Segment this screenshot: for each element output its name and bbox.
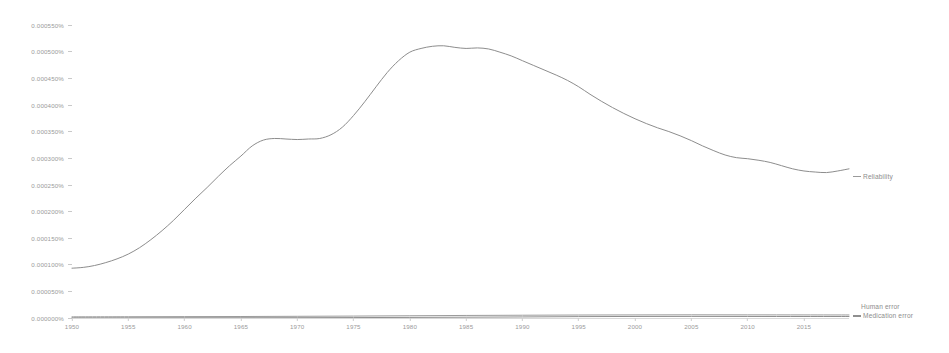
- x-axis-tick: 2015: [797, 318, 811, 330]
- series-label-medication-error[interactable]: Medication error: [853, 312, 913, 319]
- x-axis-tick-label: 1960: [177, 323, 191, 330]
- x-axis-tick: 1990: [515, 318, 529, 330]
- x-axis-tick-label: 2010: [740, 323, 754, 330]
- x-axis-tick-label: 1985: [459, 323, 473, 330]
- x-axis-tick: 1995: [572, 318, 586, 330]
- x-axis-tick: 1955: [121, 318, 135, 330]
- x-axis-tick: 1980: [403, 318, 417, 330]
- x-axis-tick-mark: [72, 318, 73, 321]
- x-axis-tick: 1975: [346, 318, 360, 330]
- x-axis-tick-label: 1950: [65, 323, 79, 330]
- series-label-text-reliability: Reliability: [863, 173, 893, 180]
- x-axis-tick-mark: [635, 318, 636, 321]
- series-label-reliability[interactable]: Reliability: [853, 173, 893, 180]
- x-axis-tick: 1965: [234, 318, 248, 330]
- x-axis-tick-mark: [747, 318, 748, 321]
- ngram-line-chart: 0.000000%0.000050%0.000100%0.000150%0.00…: [0, 0, 949, 353]
- x-axis-tick-mark: [409, 318, 410, 321]
- x-axis-tick: 1950: [65, 318, 79, 330]
- x-axis-tick-mark: [803, 318, 804, 321]
- series-line-reliability[interactable]: [72, 46, 849, 268]
- x-axis-tick-label: 2000: [628, 323, 642, 330]
- x-axis-tick: 1985: [459, 318, 473, 330]
- series-lead-line-medication-error: [853, 315, 861, 317]
- x-axis-tick-mark: [578, 318, 579, 321]
- x-axis-tick-mark: [184, 318, 185, 321]
- x-axis-tick-label: 1955: [121, 323, 135, 330]
- series-label-text-medication-error: Medication error: [863, 312, 913, 319]
- x-axis-tick-mark: [353, 318, 354, 321]
- x-axis-tick-mark: [466, 318, 467, 321]
- series-label-human-error[interactable]: Human error: [861, 303, 900, 310]
- x-axis-tick: 1970: [290, 318, 304, 330]
- plot-area: [0, 0, 949, 353]
- x-axis-tick-label: 2015: [797, 323, 811, 330]
- series-label-text-human-error: Human error: [861, 303, 900, 310]
- x-axis-tick-mark: [522, 318, 523, 321]
- x-axis-tick-label: 1995: [572, 323, 586, 330]
- x-axis-tick-label: 1975: [346, 323, 360, 330]
- x-axis-tick-mark: [128, 318, 129, 321]
- x-axis-tick: 1960: [177, 318, 191, 330]
- x-axis: 1950195519601965197019751980198519901995…: [0, 318, 949, 353]
- x-axis-tick: 2005: [684, 318, 698, 330]
- x-axis-tick-label: 2005: [684, 323, 698, 330]
- x-axis-tick-label: 1970: [290, 323, 304, 330]
- plot-svg: [0, 0, 949, 353]
- x-axis-tick: 2000: [628, 318, 642, 330]
- x-axis-tick-mark: [691, 318, 692, 321]
- x-axis-tick-label: 1965: [234, 323, 248, 330]
- x-axis-tick-label: 1990: [515, 323, 529, 330]
- series-lead-line-reliability: [853, 176, 861, 177]
- x-axis-tick-label: 1980: [403, 323, 417, 330]
- x-axis-tick: 2010: [740, 318, 754, 330]
- x-axis-tick-mark: [297, 318, 298, 321]
- x-axis-tick-mark: [240, 318, 241, 321]
